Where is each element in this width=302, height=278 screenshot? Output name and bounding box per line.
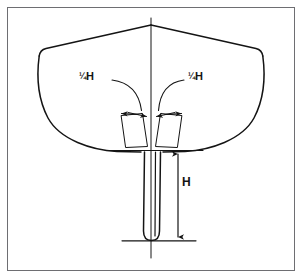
label-quarter-h-port: ¼H xyxy=(79,71,94,82)
hull-line-drawing xyxy=(0,0,302,278)
deck-line-port xyxy=(39,25,151,56)
leader-line-quarter-h-port xyxy=(112,80,142,111)
label-keel-depth-h: H xyxy=(182,176,191,188)
keel-fin-outline xyxy=(144,152,161,241)
hull-section-figure: ¼H ¼H H xyxy=(0,0,302,278)
deck-line-starboard xyxy=(151,25,263,56)
label-quarter-h-starboard: ¼H xyxy=(188,71,203,82)
leader-line-quarter-h-starboard xyxy=(159,80,185,111)
quarter-h-zone-port xyxy=(122,114,148,148)
label-quarter-h-port-text: H xyxy=(86,70,94,82)
keel-inner-line xyxy=(155,152,156,236)
quarter-h-zone-starboard xyxy=(156,114,182,148)
label-quarter-h-starboard-text: H xyxy=(195,70,203,82)
